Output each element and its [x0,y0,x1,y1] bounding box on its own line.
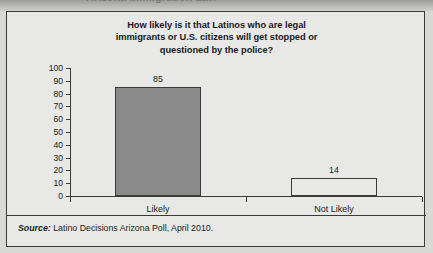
cut-off-header-text: Arizona Immigration Law [86,0,217,3]
y-axis-tick-10 [66,183,70,184]
category-label-not-likely: Not Likely [314,204,354,214]
y-axis-label-20: 20 [37,165,63,175]
plot-area: 0102030405060708090100 8514 LikelyNot Li… [7,68,426,213]
y-axis-label-90: 90 [37,76,63,86]
y-axis-tick-70 [66,106,70,107]
y-axis-label-80: 80 [37,89,63,99]
y-axis-label-40: 40 [37,140,63,150]
cut-off-page-header: Arizona Immigration Law [0,0,433,11]
y-axis-tick-20 [66,170,70,171]
figure-panel: How likely is it that Latinos who are le… [6,11,425,247]
chart-title-line-3: questioned by the police? [7,44,426,56]
y-axis-tick-40 [66,145,70,146]
y-axis-tick-90 [66,81,70,82]
y-axis-label-50: 50 [37,127,63,137]
y-axis-label-60: 60 [37,114,63,124]
bar-value-not-likely: 14 [329,165,339,175]
y-axis-label-30: 30 [37,153,63,163]
y-axis-line [70,68,71,197]
y-axis-tick-60 [66,119,70,120]
chart-title-line-2: immigrants or U.S. citizens will get sto… [7,31,426,43]
source-note: Source: Latino Decisions Arizona Poll, A… [18,223,213,233]
x-axis-tick-1 [246,197,247,202]
y-axis-label-100: 100 [37,63,63,73]
bar-value-likely: 85 [153,74,163,84]
y-axis-tick-80 [66,94,70,95]
x-axis-tick-0 [70,197,71,202]
bar-likely[interactable] [115,87,201,196]
y-axis-label-0: 0 [37,191,63,201]
y-axis-label-10: 10 [37,178,63,188]
y-axis-label-70: 70 [37,101,63,111]
source-label: Source: [18,223,51,233]
chart-title: How likely is it that Latinos who are le… [7,19,426,56]
bar-not-likely[interactable] [291,178,377,196]
x-axis-tick-2 [422,197,423,202]
y-axis-tick-50 [66,132,70,133]
source-text: Latino Decisions Arizona Poll, April 201… [53,223,213,233]
chart-title-line-1: How likely is it that Latinos who are le… [7,19,426,31]
y-axis-tick-30 [66,158,70,159]
source-divider [7,215,426,216]
y-axis-tick-100 [66,68,70,69]
category-label-likely: Likely [146,204,169,214]
